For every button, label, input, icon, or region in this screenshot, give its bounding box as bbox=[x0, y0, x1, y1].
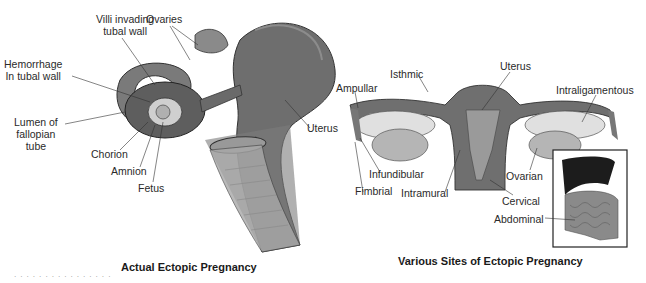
label-hemorrhage-line2: In tubal wall bbox=[4, 70, 62, 82]
label-villi-line2: tubal wall bbox=[96, 25, 154, 37]
label-hemorrhage-line1: Hemorrhage bbox=[4, 58, 62, 70]
label-abdominal: Abdominal bbox=[494, 213, 544, 225]
label-fetus: Fetus bbox=[138, 182, 164, 194]
illustration-canvas bbox=[0, 0, 646, 283]
label-lumen-line1: Lumen of bbox=[14, 116, 58, 128]
label-ovarian: Ovarian bbox=[506, 170, 543, 182]
label-lumen-line3: tube bbox=[14, 140, 58, 152]
abdominal-inset bbox=[553, 150, 627, 247]
label-infundibular: Infundibular bbox=[369, 168, 424, 180]
label-uterus-right: Uterus bbox=[500, 60, 531, 72]
label-isthmic: Isthmic bbox=[390, 68, 423, 80]
label-amnion: Amnion bbox=[111, 165, 147, 177]
label-chorion: Chorion bbox=[91, 148, 128, 160]
label-ampullar: Ampullar bbox=[336, 82, 377, 94]
label-cervical: Cervical bbox=[502, 195, 540, 207]
left-figure-title: Actual Ectopic Pregnancy bbox=[121, 261, 257, 273]
label-lumen: Lumen of fallopian tube bbox=[14, 116, 58, 152]
right-figure-title: Various Sites of Ectopic Pregnancy bbox=[398, 255, 583, 267]
label-intramural: Intramural bbox=[401, 187, 448, 199]
label-ovaries: Ovaries bbox=[146, 13, 182, 25]
label-hemorrhage: Hemorrhage In tubal wall bbox=[4, 58, 62, 82]
truncated-caption: · · · · · · · · · · · · · · · · bbox=[14, 273, 111, 280]
label-fimbrial: Fimbrial bbox=[355, 185, 392, 197]
label-lumen-line2: fallopian bbox=[14, 128, 58, 140]
label-intraligamentous: Intraligamentous bbox=[556, 84, 634, 96]
left-uterus-illustration bbox=[117, 23, 335, 252]
label-uterus-left: Uterus bbox=[307, 122, 338, 134]
